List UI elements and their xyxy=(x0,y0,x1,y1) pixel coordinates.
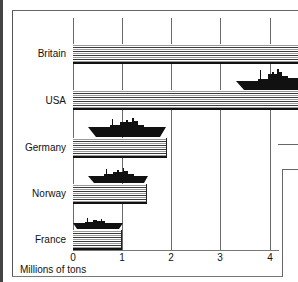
ship-icon-usa xyxy=(236,66,298,91)
x-tick-2: 2 xyxy=(168,252,174,263)
bar-usa xyxy=(73,90,298,110)
x-tick-0: 0 xyxy=(70,252,76,263)
category-label-norway: Norway xyxy=(8,188,66,199)
x-tick-1: 1 xyxy=(119,252,125,263)
x-tick-4: 4 xyxy=(267,252,273,263)
x-axis-title: Millions of tons xyxy=(20,264,86,275)
x-tick-3: 3 xyxy=(217,252,223,263)
category-label-britain: Britain xyxy=(8,48,66,59)
category-label-germany: Germany xyxy=(8,142,66,153)
bar-norway xyxy=(73,184,147,204)
bar-britain xyxy=(73,44,298,64)
inset-box-top-edge xyxy=(282,169,298,170)
ship-icon-germany xyxy=(88,118,166,138)
ship-icon-france xyxy=(73,218,123,230)
inset-box-left-edge xyxy=(282,169,283,277)
page-edge xyxy=(0,0,3,282)
bar-germany xyxy=(73,138,167,158)
ship-icon-norway xyxy=(88,168,148,184)
frame-top-border xyxy=(12,10,298,11)
category-label-france: France xyxy=(8,234,66,245)
category-label-usa: USA xyxy=(8,95,66,106)
frame-bottom-border xyxy=(12,276,282,277)
x-axis-baseline xyxy=(73,250,279,251)
bar-france xyxy=(73,230,122,250)
side-rule xyxy=(278,144,298,145)
